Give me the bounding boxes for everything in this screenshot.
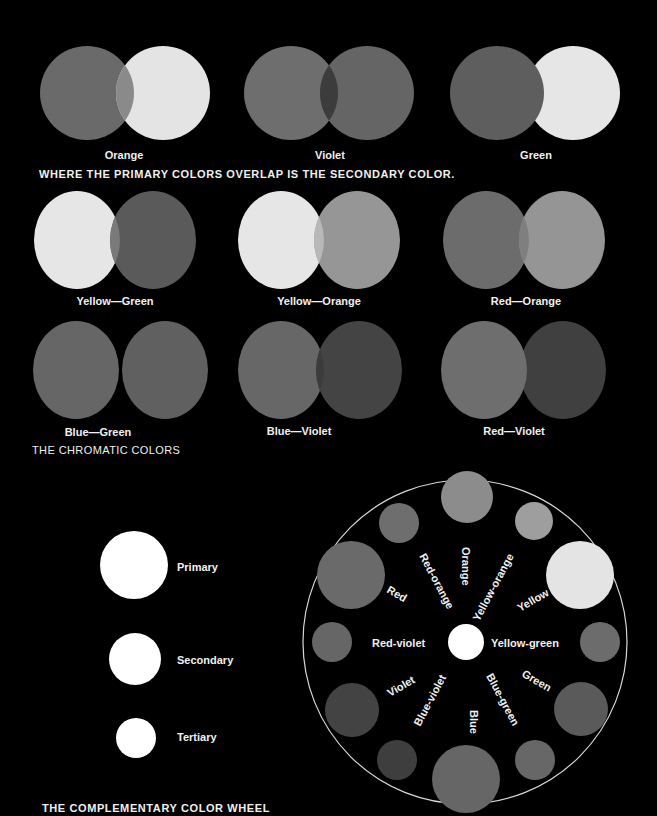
wheel-node-yellow xyxy=(546,541,614,609)
legend-tertiary-label: Tertiary xyxy=(177,731,217,743)
circle-left xyxy=(238,191,324,289)
circle-right xyxy=(519,191,605,289)
pair-green xyxy=(450,46,620,140)
primary-circle-left xyxy=(450,46,544,140)
pair-yellow-orange xyxy=(238,191,400,289)
wheel-node-yellow-green xyxy=(580,622,620,662)
circle-right xyxy=(314,191,400,289)
wheel-label-yellow: Yellow xyxy=(515,586,551,614)
circle-right xyxy=(520,321,606,419)
wheel-label-blue-green: Blue-green xyxy=(484,671,522,728)
label-violet: Violet xyxy=(315,149,345,161)
wheel-node-blue-green xyxy=(515,740,555,780)
pair-violet xyxy=(244,46,414,140)
wheel-label-red: Red xyxy=(385,583,409,604)
label-green: Green xyxy=(520,149,552,161)
circle-left xyxy=(238,321,324,419)
pair-red-violet xyxy=(441,321,606,419)
wheel-label-green: Green xyxy=(520,667,554,693)
circle-left xyxy=(34,191,120,289)
primary-size-icon xyxy=(100,531,168,599)
legend-secondary-label: Secondary xyxy=(177,654,234,666)
complementary-color-wheel: Orange Yellow-orange Yellow Yellow-green… xyxy=(303,471,627,813)
chromatic-caption: THE CHROMATIC COLORS xyxy=(32,444,180,456)
pair-blue-violet xyxy=(238,321,402,419)
wheel-label-red-orange: Red-orange xyxy=(417,551,456,611)
label-blue-green: Blue—Green xyxy=(65,426,132,438)
wheel-label-violet: Violet xyxy=(385,673,417,698)
wheel-node-blue xyxy=(432,745,500,813)
label-red-violet: Red—Violet xyxy=(483,425,545,437)
pair-yellow-green xyxy=(34,191,196,289)
circle-left xyxy=(441,321,527,419)
wheel-label-yellow-green: Yellow-green xyxy=(491,637,559,649)
label-red-orange: Red—Orange xyxy=(491,295,561,307)
wheel-label-blue-violet: Blue-violet xyxy=(411,672,448,728)
secondary-size-icon xyxy=(109,633,161,685)
circle-left xyxy=(33,321,119,419)
pair-orange xyxy=(40,46,210,140)
secondary-caption: WHERE THE PRIMARY COLORS OVERLAP IS THE … xyxy=(39,168,455,180)
wheel-node-blue-violet xyxy=(377,740,417,780)
wheel-label-blue: Blue xyxy=(468,710,480,734)
wheel-caption: THE COMPLEMENTARY COLOR WHEEL xyxy=(42,802,270,814)
color-theory-diagram: Orange Violet Green WHERE THE PRIMARY CO… xyxy=(0,0,657,816)
tertiary-size-icon xyxy=(116,718,156,758)
label-yellow-orange: Yellow—Orange xyxy=(277,295,361,307)
wheel-node-red-violet xyxy=(312,622,352,662)
wheel-label-red-violet: Red-violet xyxy=(372,637,426,649)
size-legend: Primary Secondary Tertiary xyxy=(100,531,234,758)
label-orange: Orange xyxy=(105,149,144,161)
circle-right xyxy=(122,321,208,419)
pair-blue-green xyxy=(33,321,208,419)
label-yellow-green: Yellow—Green xyxy=(76,295,153,307)
wheel-node-red-orange xyxy=(379,503,419,543)
label-blue-violet: Blue—Violet xyxy=(267,425,332,437)
pair-red-orange xyxy=(443,191,605,289)
circle-right xyxy=(110,191,196,289)
wheel-node-orange xyxy=(441,471,493,523)
wheel-node-red xyxy=(317,541,385,609)
wheel-center-icon xyxy=(448,624,484,660)
wheel-node-violet xyxy=(325,683,379,737)
wheel-label-yellow-orange: Yellow-orange xyxy=(470,551,516,622)
circle-right xyxy=(316,321,402,419)
circle-left xyxy=(443,191,529,289)
wheel-label-orange: Orange xyxy=(460,547,472,586)
wheel-node-green xyxy=(554,682,608,736)
legend-primary-label: Primary xyxy=(177,561,219,573)
wheel-node-yellow-orange xyxy=(515,502,553,540)
